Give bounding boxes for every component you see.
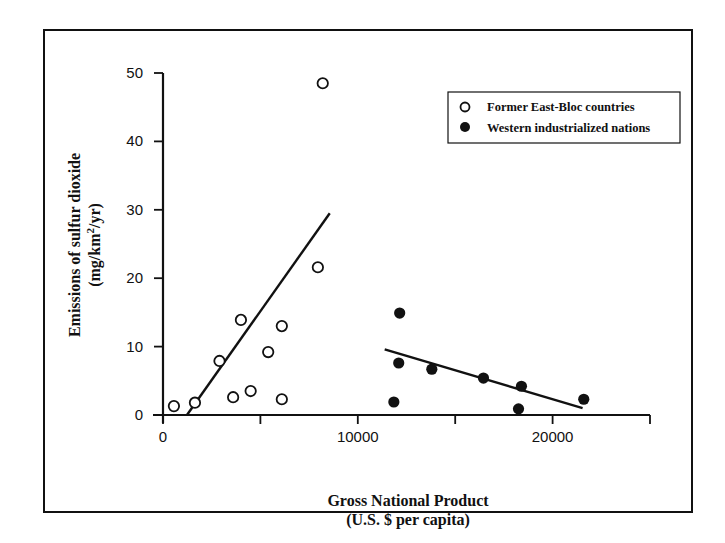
filled-circle-point (578, 394, 589, 405)
y-axis-sublabel: (mg/km2/yr) (84, 203, 104, 287)
y-tick-label: 30 (126, 201, 143, 218)
y-tick-label: 20 (126, 269, 143, 286)
legend-open-circle-icon (461, 103, 470, 112)
filled-circle-point (394, 307, 405, 318)
open-circle-point (313, 262, 323, 272)
x-axis-title: Gross National Product (U.S. $ per capit… (327, 492, 489, 529)
y-tick-label: 50 (126, 64, 143, 81)
legend-label-east: Former East-Bloc countries (487, 100, 635, 114)
open-circle-point (236, 315, 246, 325)
y-tick-label: 0 (135, 406, 143, 423)
filled-circle-point (516, 381, 527, 392)
x-tick-label: 0 (159, 428, 167, 445)
x-axis-label: Gross National Product (327, 492, 489, 509)
legend: Former East-Bloc countries Western indus… (448, 92, 680, 143)
filled-circle-point (478, 372, 489, 383)
filled-circle-point (426, 364, 437, 375)
open-circle-point (277, 321, 287, 331)
y-axis-label: Emissions of sulfur dioxide (66, 153, 83, 337)
filled-circle-point (393, 357, 404, 368)
x-tick-label: 10000 (337, 428, 379, 445)
open-circle-point (318, 78, 328, 88)
y-tick-label: 10 (126, 338, 143, 355)
legend-filled-circle-icon (460, 122, 470, 132)
open-circle-point (263, 347, 273, 357)
y-axis-title: Emissions of sulfur dioxide (mg/km2/yr) (66, 153, 104, 337)
filled-circle-point (388, 396, 399, 407)
x-tick-label: 20000 (532, 428, 574, 445)
filled-circle-point (513, 403, 524, 414)
trendline-east (187, 213, 330, 415)
open-circle-point (190, 397, 200, 407)
legend-label-west: Western industrialized nations (487, 121, 650, 135)
y-tick-label: 40 (126, 132, 143, 149)
open-circle-point (228, 392, 238, 402)
open-circle-point (169, 401, 179, 411)
open-circle-point (245, 386, 255, 396)
open-circle-point (277, 394, 287, 404)
scatter-chart: 0102030405001000020000 Former East-Bloc … (0, 0, 725, 543)
open-circle-point (214, 356, 224, 366)
x-axis-sublabel: (U.S. $ per capita) (346, 511, 470, 529)
